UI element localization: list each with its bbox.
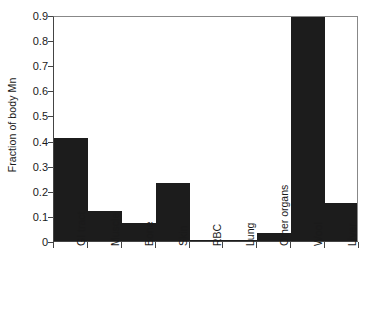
y-axis-tick-label: 0.8 — [0, 35, 48, 47]
y-axis-tick-label: 0.1 — [0, 211, 48, 223]
y-axis-tick-label: 0.3 — [0, 161, 48, 173]
y-axis-tick-label: 0 — [0, 236, 48, 248]
y-axis-tick-label: 0.6 — [0, 85, 48, 97]
x-axis-tick-mark — [155, 242, 156, 248]
bar — [190, 240, 224, 241]
x-axis-tick-mark — [87, 242, 88, 248]
x-axis-tick-mark — [53, 242, 54, 248]
bar — [257, 233, 291, 241]
bar — [223, 240, 257, 241]
bars-layer — [54, 17, 357, 241]
y-axis-tick-label: 0.5 — [0, 110, 48, 122]
bar — [325, 203, 357, 241]
y-axis-tick-label: 0.4 — [0, 136, 48, 148]
x-axis-tick-mark — [256, 242, 257, 248]
x-axis-tick-mark — [290, 242, 291, 248]
x-axis-tick-mark — [189, 242, 190, 248]
y-axis-tick-label: 0.7 — [0, 60, 48, 72]
y-axis-tick-label: 0.2 — [0, 186, 48, 198]
x-axis-tick-mark — [358, 242, 359, 248]
plot-area — [53, 16, 358, 242]
y-axis-tick-label: 0.9 — [0, 10, 48, 22]
bar — [291, 17, 325, 241]
x-axis-tick-mark — [324, 242, 325, 248]
bar — [88, 211, 122, 241]
bar — [122, 223, 156, 241]
bar-chart-figure: Fraction of body Mn 00.10.20.30.40.50.60… — [0, 0, 372, 321]
bar — [54, 138, 88, 241]
bar — [156, 183, 190, 241]
x-axis-tick-mark — [222, 242, 223, 248]
x-axis-tick-mark — [121, 242, 122, 248]
